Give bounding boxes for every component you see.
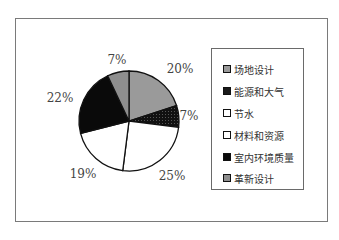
pie-slices [79, 71, 179, 171]
pie-slice [123, 121, 179, 171]
legend-label: 材料和资源 [234, 128, 284, 143]
legend-swatch-icon [223, 131, 231, 139]
legend-item-site-design: 场地设计 [223, 62, 274, 76]
legend-swatch-icon [223, 174, 231, 182]
legend-swatch-icon [223, 65, 231, 73]
legend-item-innovation-design: 革新设计 [223, 171, 274, 185]
legend-item-indoor-environment: 室内环境质量 [223, 150, 294, 164]
slice-percent-label: 22% [47, 91, 74, 105]
legend-label: 革新设计 [234, 171, 274, 186]
legend-item-materials-resources: 材料和资源 [223, 128, 284, 142]
slice-percent-label: 19% [70, 167, 97, 181]
legend-label: 能源和大气 [234, 84, 284, 99]
legend-item-water-saving: 节水 [223, 106, 254, 120]
slice-percent-label: 25% [159, 169, 186, 183]
legend-swatch-icon [223, 109, 231, 117]
legend-label: 场地设计 [234, 62, 274, 77]
legend-swatch-icon [223, 153, 231, 161]
legend-swatch-icon [223, 87, 231, 95]
legend-label: 室内环境质量 [234, 150, 294, 165]
slice-percent-label: 20% [167, 62, 194, 76]
slice-percent-label: 7% [179, 109, 198, 123]
slice-percent-label: 7% [107, 53, 126, 67]
legend: 场地设计 能源和大气 节水 材料和资源 室内环境质量 革新设计 [211, 48, 304, 190]
legend-item-energy-atmosphere: 能源和大气 [223, 84, 284, 98]
legend-label: 节水 [234, 106, 254, 121]
